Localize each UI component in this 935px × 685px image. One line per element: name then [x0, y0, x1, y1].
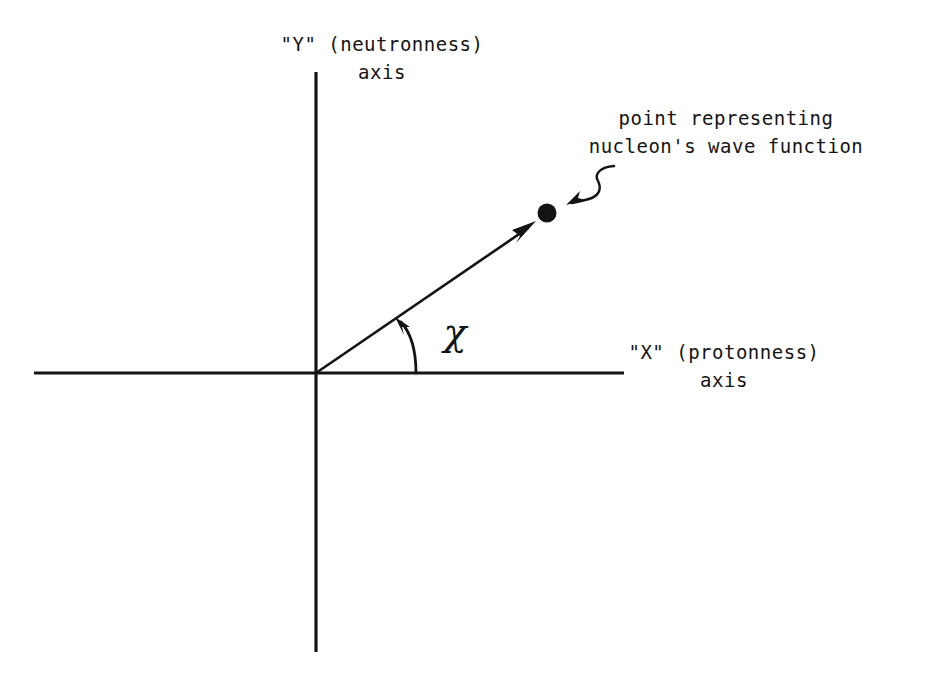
angle-arc	[401, 322, 416, 373]
x-axis-label-line2: axis	[628, 366, 819, 394]
curly-pointer-line	[572, 166, 614, 203]
wave-function-point	[538, 204, 557, 223]
y-axis-label-line1: "Y" (neutronness)	[281, 33, 484, 55]
point-annotation-line1: point representing	[619, 107, 834, 129]
state-vector-arrowhead	[512, 221, 536, 243]
x-axis-label-line1: "X" (protonness)	[628, 341, 819, 363]
y-axis-label-line2: axis	[281, 58, 484, 86]
x-axis-label: "X" (protonness) axis	[628, 338, 819, 394]
point-annotation-line2: nucleon's wave function	[589, 132, 864, 160]
state-vector-line	[316, 228, 528, 373]
chi-angle-symbol: χ	[443, 313, 466, 351]
point-annotation: point representing nucleon's wave functi…	[589, 104, 864, 160]
y-axis-label: "Y" (neutronness) axis	[281, 30, 484, 86]
